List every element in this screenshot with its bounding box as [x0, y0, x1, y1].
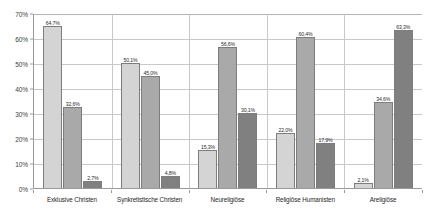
bar-group: 15,3%56,6%30,1% [189, 14, 267, 188]
bar[interactable]: 50,1% [121, 63, 140, 188]
bar-group: 22,0%60,4%17,9% [267, 14, 345, 188]
bar-group: 2,1%34,6%63,3% [344, 14, 422, 188]
y-axis-tick-label: 40% [15, 86, 28, 93]
y-axis-tick-label: 30% [15, 111, 28, 118]
bar[interactable]: 32,6% [63, 107, 82, 189]
x-axis-tick-mark [33, 190, 34, 193]
x-axis-category-label: Religiöse Humanisten [266, 190, 344, 220]
bar-slot: 50,1% [121, 14, 140, 188]
bar[interactable]: 4,8% [161, 176, 180, 188]
bar[interactable]: 63,3% [394, 30, 413, 188]
y-axis-tick-label: 10% [15, 161, 28, 168]
bar-value-label: 4,8% [165, 170, 176, 176]
bar-slot: 64,7% [43, 14, 62, 188]
bar-group: 64,7%32,6%2,7% [34, 14, 112, 188]
bar-chart: 0%10%20%30%40%50%60%70% 64,7%32,6%2,7%50… [0, 0, 426, 223]
x-axis-tick-mark [266, 190, 267, 193]
category-separator [112, 14, 113, 188]
bar-value-label: 2,1% [358, 177, 369, 183]
bar-value-label: 2,7% [87, 175, 98, 181]
y-axis-tick-label: 20% [15, 136, 28, 143]
y-axis-tick-label: 60% [15, 36, 28, 43]
y-axis-tick-label: 70% [15, 11, 28, 18]
x-axis-category-label: Exklusive Christen [33, 190, 111, 220]
y-axis-tick-label: 50% [15, 61, 28, 68]
bar-slot: 17,9% [316, 14, 335, 188]
bar-value-label: 30,1% [241, 107, 255, 113]
y-axis: 0%10%20%30%40%50%60%70% [0, 14, 33, 190]
bar-slot: 30,1% [238, 14, 257, 188]
bar-value-label: 50,1% [123, 57, 137, 63]
x-axis-category-label: Areligiöse [344, 190, 422, 220]
bar-slot: 60,4% [296, 14, 315, 188]
bar[interactable]: 64,7% [43, 26, 62, 188]
bar-slot: 2,1% [354, 14, 373, 188]
bar-slot: 63,3% [394, 14, 413, 188]
x-axis-tick-mark [422, 190, 423, 193]
bar-slot: 34,6% [374, 14, 393, 188]
bar[interactable]: 2,1% [354, 183, 373, 188]
bar-slot: 22,0% [276, 14, 295, 188]
bar-value-label: 56,6% [221, 41, 235, 47]
bar-value-label: 34,6% [376, 96, 390, 102]
bar-slot: 15,3% [198, 14, 217, 188]
bar-value-label: 60,4% [299, 31, 313, 37]
plot-area: 64,7%32,6%2,7%50,1%45,0%4,8%15,3%56,6%30… [33, 14, 422, 189]
bar-slot: 32,6% [63, 14, 82, 188]
bar[interactable]: 56,6% [218, 47, 237, 189]
bar-slot: 2,7% [83, 14, 102, 188]
y-axis-tick-label: 0% [19, 186, 28, 193]
x-axis-tick-mark [111, 190, 112, 193]
bar-groups: 64,7%32,6%2,7%50,1%45,0%4,8%15,3%56,6%30… [34, 14, 422, 188]
bar-group: 50,1%45,0%4,8% [112, 14, 190, 188]
bar-value-label: 17,9% [319, 137, 333, 143]
x-axis-tick-mark [344, 190, 345, 193]
bar-value-label: 32,6% [66, 101, 80, 107]
x-axis-category-label: Synkretistische Christen [111, 190, 189, 220]
bar[interactable]: 17,9% [316, 143, 335, 188]
bar-value-label: 15,3% [201, 144, 215, 150]
x-axis: Exklusive ChristenSynkretistische Christ… [33, 190, 422, 220]
x-axis-category-label: Neureligiöse [189, 190, 267, 220]
bar-slot: 45,0% [141, 14, 160, 188]
bar-slot: 56,6% [218, 14, 237, 188]
bar[interactable]: 34,6% [374, 102, 393, 189]
bar[interactable]: 15,3% [198, 150, 217, 188]
bar-value-label: 22,0% [279, 127, 293, 133]
bar[interactable]: 2,7% [83, 181, 102, 188]
category-separator [344, 14, 345, 188]
bar-value-label: 45,0% [143, 70, 157, 76]
bar[interactable]: 30,1% [238, 113, 257, 188]
category-separator [189, 14, 190, 188]
bar[interactable]: 60,4% [296, 37, 315, 188]
bar[interactable]: 45,0% [141, 76, 160, 189]
bar-slot: 4,8% [161, 14, 180, 188]
category-separator [267, 14, 268, 188]
bar-value-label: 64,7% [46, 20, 60, 26]
bar[interactable]: 22,0% [276, 133, 295, 188]
x-axis-tick-mark [189, 190, 190, 193]
bar-value-label: 63,3% [396, 24, 410, 30]
